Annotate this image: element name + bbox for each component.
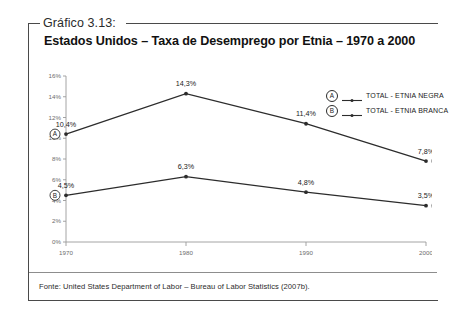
data-point-label: 10,4% [56, 120, 77, 129]
data-point-label: 11,4% [296, 109, 316, 118]
chart-title: Estados Unidos – Taxa de Desemprego por … [44, 34, 415, 48]
data-point-label: 7,8% [418, 147, 432, 156]
frame-border-top-left [28, 23, 40, 24]
figure-caption: Gráfico 3.13: [43, 16, 116, 31]
x-axis-tick-label: 1970 [59, 249, 73, 256]
legend-item-b: B TOTAL - ETNIA BRANCA [326, 103, 463, 118]
series-point [184, 175, 188, 179]
frame-border-bottom [28, 300, 438, 301]
frame-border-top-right [126, 23, 438, 24]
series-point [424, 204, 428, 208]
data-point-label: 4,8% [298, 178, 315, 187]
data-point-label: 6,3% [178, 162, 195, 171]
y-axis-tick-label: 8% [52, 155, 61, 162]
y-axis-tick-label: 0% [52, 238, 61, 245]
series-badge-letter: B [53, 192, 57, 199]
legend-label-b: TOTAL - ETNIA BRANCA [366, 107, 448, 114]
legend-badge-a: A [326, 90, 338, 102]
series-end-marker-group: AABB [50, 129, 432, 211]
series-point [184, 92, 188, 96]
series-point [304, 190, 308, 194]
chart-legend: A TOTAL - ETNIA NEGRA B TOTAL - ETNIA BR… [326, 88, 463, 118]
series-point [64, 193, 68, 197]
data-point-label: 3,5% [418, 191, 432, 200]
legend-badge-b: B [326, 105, 338, 117]
x-axis-tick-label: 1980 [179, 249, 193, 256]
legend-item-a: A TOTAL - ETNIA NEGRA [326, 88, 463, 103]
y-axis-tick-label: 2% [52, 217, 61, 224]
y-axis-tick-label: 16% [49, 72, 62, 79]
legend-label-a: TOTAL - ETNIA NEGRA [366, 92, 444, 99]
series-point [64, 132, 68, 136]
data-point-label: 4,5% [58, 181, 75, 190]
x-axis-tick-label: 1990 [299, 249, 313, 256]
source-note: Fonte: United States Department of Labor… [39, 282, 310, 291]
legend-line-swatch-a [342, 91, 362, 100]
y-axis-tick-label: 14% [49, 93, 62, 100]
data-point-label: 14,3% [176, 79, 197, 88]
series-point [304, 122, 308, 126]
y-axis: 0%2%4%6%8%10%12%14%16% [49, 72, 66, 245]
series-point [424, 159, 428, 163]
series-line-b [66, 177, 426, 206]
figure-container: Gráfico 3.13: Estados Unidos – Taxa de D… [28, 16, 438, 301]
legend-line-swatch-b [342, 106, 362, 115]
source-divider [29, 272, 437, 273]
x-axis: 1970198019902000 [59, 242, 432, 256]
series-badge-letter: A [53, 130, 58, 137]
frame-border-left [28, 23, 29, 301]
x-axis-tick-label: 2000 [419, 249, 432, 256]
